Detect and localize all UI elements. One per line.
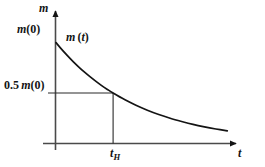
curve-close-paren: ) <box>85 30 89 44</box>
y-tick-label-half-mass: 0.5m(0) <box>4 79 45 91</box>
curve-m-variable: m <box>66 30 75 44</box>
m0-parens: (0) <box>26 22 40 36</box>
x-axis-label: t <box>238 147 241 159</box>
half-coefficient: 0.5 <box>4 78 19 92</box>
curve-label: m(t) <box>66 31 89 43</box>
m0-variable: m <box>17 22 26 36</box>
half-m-parens: (0) <box>31 78 45 92</box>
half-m-variable: m <box>21 78 30 92</box>
x-tick-label-half-life: tH <box>110 147 120 161</box>
y-tick-label-initial-mass: m(0) <box>17 23 40 35</box>
y-axis-label: m <box>39 2 48 14</box>
decay-figure: m t m(0) 0.5m(0) m(t) tH <box>0 0 265 167</box>
half-life-t-variable: t <box>110 146 113 160</box>
half-life-subscript: H <box>114 152 121 162</box>
